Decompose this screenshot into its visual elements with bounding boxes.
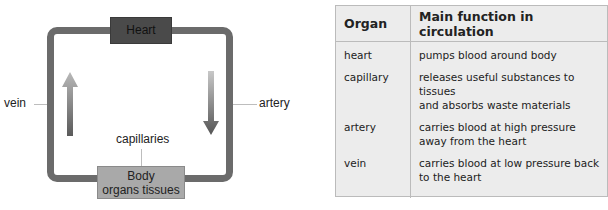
function-text: and absorbs waste materials — [419, 98, 603, 112]
header-organ: Organ — [336, 6, 411, 42]
heart-label: Heart — [126, 23, 155, 37]
function-text: away from the heart — [419, 134, 603, 148]
down-arrow-icon — [202, 71, 220, 137]
organ-cell: heart — [336, 42, 411, 65]
function-text: releases useful substances to tissues — [419, 70, 603, 98]
organ-cell: artery — [336, 114, 411, 150]
function-text: carries blood at low pressure back — [419, 156, 603, 170]
function-cell: carries blood at low pressure backto the… — [411, 150, 608, 198]
up-arrow-icon — [61, 72, 79, 138]
heart-box: Heart — [110, 17, 172, 44]
table-row: vein carries blood at low pressure backt… — [336, 150, 607, 198]
table-header-row: Organ Main function in circulation — [336, 6, 607, 42]
table-row: heart pumps blood around body — [336, 42, 607, 65]
capillaries-leader-line — [141, 149, 142, 166]
artery-leader-line — [233, 104, 257, 105]
organ-function-table: Organ Main function in circulation heart… — [335, 5, 608, 197]
function-cell: releases useful substances to tissuesand… — [411, 64, 608, 114]
function-cell: pumps blood around body — [411, 42, 608, 65]
organs-tissues-label: organs tissues — [98, 183, 184, 197]
body-organs-box: Body organs tissues — [97, 166, 185, 199]
table-row: artery carries blood at high pressureawa… — [336, 114, 607, 150]
vein-label: vein — [4, 96, 26, 110]
organ-cell: capillary — [336, 64, 411, 114]
function-text: to the heart — [419, 170, 603, 184]
function-text: pumps blood around body — [419, 48, 603, 62]
artery-label: artery — [259, 96, 290, 110]
body-label: Body — [98, 169, 184, 183]
table-row: capillary releases useful substances to … — [336, 64, 607, 114]
capillaries-label: capillaries — [116, 132, 169, 146]
circulation-diagram: Heart Body organs tissues capillaries ve… — [0, 0, 300, 210]
organ-cell: vein — [336, 150, 411, 198]
vein-leader-line — [34, 104, 47, 105]
function-cell: carries blood at high pressureaway from … — [411, 114, 608, 150]
header-function: Main function in circulation — [411, 6, 608, 42]
function-text: carries blood at high pressure — [419, 120, 603, 134]
